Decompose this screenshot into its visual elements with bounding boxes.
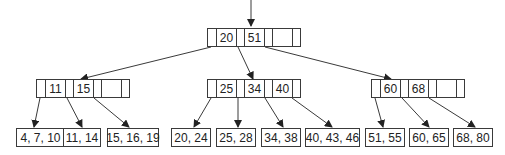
key-cell bbox=[272, 29, 292, 46]
pointer-cell bbox=[400, 80, 408, 97]
pointer-cell bbox=[236, 29, 244, 46]
edge-node3-to-leaf8 bbox=[375, 98, 383, 127]
pointer-cell bbox=[456, 80, 464, 97]
key-cell: 60 bbox=[380, 80, 400, 97]
key-cell: 25 bbox=[216, 80, 236, 97]
leaf-node-1: 4, 7, 10 bbox=[16, 128, 65, 147]
leaf-node-5: 25, 28 bbox=[216, 128, 256, 147]
edge-node1-to-leaf2 bbox=[67, 98, 82, 127]
pointer-cell bbox=[65, 80, 73, 97]
edge-node3-to-leaf9 bbox=[402, 98, 429, 127]
pointer-cell bbox=[292, 29, 300, 46]
pointer-cell bbox=[428, 80, 436, 97]
pointer-cell bbox=[208, 80, 216, 97]
edge-node1-to-leaf1 bbox=[34, 98, 40, 127]
pointer-cell bbox=[93, 80, 101, 97]
key-cell: 34 bbox=[244, 80, 264, 97]
root-node: 20 51 bbox=[207, 28, 301, 47]
edge-root-to-node2 bbox=[238, 47, 253, 79]
internal-node-2: 25 34 40 bbox=[207, 79, 301, 98]
key-cell: 40 bbox=[272, 80, 292, 97]
pointer-cell bbox=[236, 80, 244, 97]
leaf-node-9: 60, 65 bbox=[409, 128, 449, 147]
edge-node3-to-leaf10 bbox=[429, 98, 475, 127]
pointer-cell bbox=[372, 80, 380, 97]
edge-root-to-node3 bbox=[265, 47, 391, 79]
leaf-node-2: 11, 14 bbox=[63, 128, 101, 147]
key-cell: 51 bbox=[244, 29, 264, 46]
internal-node-1: 11 15 bbox=[36, 79, 130, 98]
leaf-node-8: 51, 55 bbox=[365, 128, 405, 147]
pointer-cell bbox=[264, 80, 272, 97]
pointer-cell bbox=[37, 80, 45, 97]
key-cell: 20 bbox=[216, 29, 236, 46]
pointer-cell bbox=[121, 80, 129, 97]
pointer-cell bbox=[264, 29, 272, 46]
leaf-node-4: 20, 24 bbox=[171, 128, 211, 147]
pointer-cell bbox=[292, 80, 300, 97]
internal-node-3: 60 68 bbox=[371, 79, 465, 98]
edge-root-to-node1 bbox=[81, 47, 211, 79]
b-tree-diagram: 20 51 11 15 25 34 40 60 68 4, 7, 10 1 bbox=[0, 0, 505, 155]
edge-node1-to-leaf3 bbox=[94, 98, 129, 127]
edge-node2-to-leaf7 bbox=[292, 98, 332, 127]
leaf-node-3: 15, 16, 19 bbox=[107, 128, 159, 147]
key-cell bbox=[436, 80, 456, 97]
pointer-cell bbox=[208, 29, 216, 46]
key-cell: 11 bbox=[45, 80, 65, 97]
edge-node2-to-leaf6 bbox=[265, 98, 283, 127]
edge-node2-to-leaf4 bbox=[194, 98, 211, 127]
key-cell bbox=[101, 80, 121, 97]
leaf-node-10: 68, 80 bbox=[453, 128, 493, 147]
leaf-node-7: 40, 43, 46 bbox=[305, 128, 360, 147]
leaf-node-6: 34, 38 bbox=[261, 128, 301, 147]
key-cell: 15 bbox=[73, 80, 93, 97]
key-cell: 68 bbox=[408, 80, 428, 97]
